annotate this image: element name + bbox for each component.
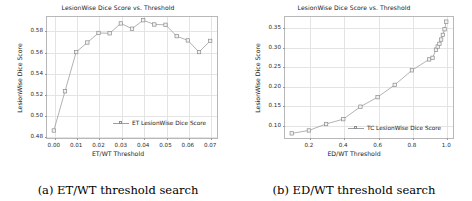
data-point-marker bbox=[63, 90, 66, 93]
data-point-marker bbox=[441, 33, 444, 36]
data-point-marker bbox=[153, 23, 156, 26]
series-line bbox=[54, 20, 210, 130]
data-point-marker bbox=[410, 69, 413, 72]
data-point-marker bbox=[376, 95, 379, 98]
subfigure-b: LesionWise Dice Score vs. Threshold Lesi… bbox=[236, 0, 472, 201]
data-point-marker bbox=[307, 129, 310, 132]
data-point-marker bbox=[393, 83, 396, 86]
data-point-marker bbox=[438, 42, 441, 45]
data-point-marker bbox=[208, 39, 211, 42]
plot-a: LesionWise Dice Score vs. Threshold Lesi… bbox=[0, 0, 236, 166]
data-point-marker bbox=[186, 39, 189, 42]
data-point-marker bbox=[175, 34, 178, 37]
subfigure-caption-b: (b) ED/WT threshold search bbox=[236, 183, 472, 197]
data-point-marker bbox=[52, 129, 55, 132]
data-point-marker bbox=[197, 50, 200, 53]
data-point-marker bbox=[290, 132, 293, 135]
series-layer bbox=[0, 0, 236, 166]
data-point-marker bbox=[439, 38, 442, 41]
data-point-marker bbox=[108, 32, 111, 35]
data-point-marker bbox=[130, 27, 133, 30]
data-point-marker bbox=[97, 31, 100, 34]
data-point-marker bbox=[445, 20, 448, 23]
plot-b: LesionWise Dice Score vs. Threshold Lesi… bbox=[236, 0, 472, 166]
data-point-marker bbox=[443, 28, 446, 31]
data-point-marker bbox=[164, 23, 167, 26]
subfigure-a: LesionWise Dice Score vs. Threshold Lesi… bbox=[0, 0, 236, 201]
data-point-marker bbox=[342, 117, 345, 120]
data-point-marker bbox=[74, 50, 77, 53]
data-point-marker bbox=[431, 56, 434, 59]
data-point-marker bbox=[427, 58, 430, 61]
data-point-marker bbox=[359, 105, 362, 108]
subfigure-caption-a: (a) ET/WT threshold search bbox=[0, 183, 236, 197]
series-line bbox=[292, 22, 447, 134]
data-point-marker bbox=[86, 41, 89, 44]
data-point-marker bbox=[324, 122, 327, 125]
data-point-marker bbox=[119, 22, 122, 25]
series-layer bbox=[236, 0, 472, 166]
data-point-marker bbox=[141, 19, 144, 22]
figure-row: LesionWise Dice Score vs. Threshold Lesi… bbox=[0, 0, 472, 201]
